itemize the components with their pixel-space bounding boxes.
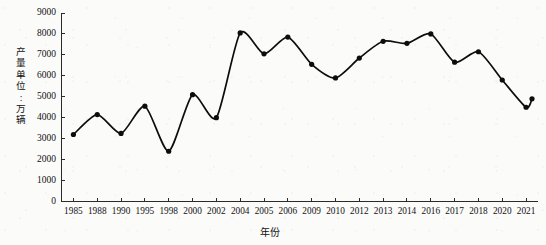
y-axis-tick-labels: 0100020003000400050006000700080009000 [37, 7, 56, 206]
y-axis-title-char-3: 位 [10, 80, 32, 91]
data-point-marker [238, 30, 243, 35]
data-point-marker [529, 96, 534, 101]
data-point-marker [500, 77, 505, 82]
x-axis-tick-label: 2018 [469, 206, 488, 216]
data-point-marker [71, 132, 76, 137]
y-axis-title: 产 量 单 位 : 万 辆 [10, 46, 32, 126]
y-axis-tick-label: 2000 [37, 154, 56, 164]
data-point-marker [142, 104, 147, 109]
x-axis-tick-label: 1995 [136, 206, 155, 216]
x-axis-tick-label: 2002 [207, 206, 226, 216]
x-axis-tick-label: 2010 [326, 206, 345, 216]
data-series-line [73, 32, 532, 152]
x-axis-tick-label: 2000 [183, 206, 202, 216]
y-axis-tick-marks [62, 13, 66, 202]
x-axis-tick-label: 2012 [350, 206, 369, 216]
x-axis-tick-label: 2016 [421, 206, 440, 216]
y-axis-title-char-4: : [10, 92, 32, 103]
x-axis-tick-label: 2009 [302, 206, 321, 216]
data-series-markers [71, 30, 535, 154]
data-point-marker [333, 75, 338, 80]
y-axis-tick-label: 9000 [37, 7, 56, 17]
data-point-marker [190, 92, 195, 97]
data-point-marker [285, 34, 290, 39]
y-axis-tick-label: 7000 [37, 49, 56, 59]
x-axis-tick-label: 1998 [159, 206, 178, 216]
x-axis-tick-label: 1988 [88, 206, 107, 216]
x-axis-tick-label: 2014 [398, 206, 417, 216]
x-axis-tick-marks [73, 198, 526, 202]
y-axis-title-char-1: 量 [10, 57, 32, 68]
x-axis-tick-label: 2005 [255, 206, 274, 216]
data-point-marker [357, 55, 362, 60]
x-axis-tick-label: 1985 [64, 206, 83, 216]
y-axis-title-char-5: 万 [10, 103, 32, 114]
data-point-marker [309, 62, 314, 67]
data-point-marker [95, 112, 100, 117]
x-axis-tick-label: 2004 [231, 206, 250, 216]
x-axis-tick-label: 2021 [517, 206, 536, 216]
y-axis-tick-label: 6000 [37, 70, 56, 80]
data-point-marker [404, 41, 409, 46]
data-point-marker [381, 39, 386, 44]
y-axis-title-char-6: 辆 [10, 114, 32, 125]
y-axis-title-char-2: 单 [10, 69, 32, 80]
data-point-marker [476, 49, 481, 54]
data-point-marker [118, 131, 123, 136]
x-axis-tick-label: 2017 [445, 206, 464, 216]
y-axis-tick-label: 4000 [37, 112, 56, 122]
chart-plot-area: 0100020003000400050006000700080009000 19… [0, 0, 546, 245]
line-chart: 0100020003000400050006000700080009000 19… [0, 0, 546, 245]
data-point-marker [261, 51, 266, 56]
x-axis-tick-label: 2013 [374, 206, 393, 216]
x-axis-tick-label: 2006 [279, 206, 298, 216]
y-axis-tick-label: 1000 [37, 175, 56, 185]
data-point-marker [452, 60, 457, 65]
data-point-marker [166, 149, 171, 154]
y-axis-title-char-0: 产 [10, 46, 32, 57]
y-axis-tick-label: 0 [51, 196, 56, 206]
data-point-marker [428, 31, 433, 36]
data-point-marker [214, 115, 219, 120]
y-axis-tick-label: 5000 [37, 91, 56, 101]
data-point-marker [523, 105, 528, 110]
x-axis-title: 年份 [260, 224, 280, 239]
y-axis-tick-label: 3000 [37, 133, 56, 143]
y-axis-tick-label: 8000 [37, 28, 56, 38]
x-axis-tick-label: 1990 [112, 206, 131, 216]
x-axis-tick-labels: 1985198819901995199820002002200420052006… [64, 206, 536, 216]
x-axis-tick-label: 2020 [493, 206, 512, 216]
